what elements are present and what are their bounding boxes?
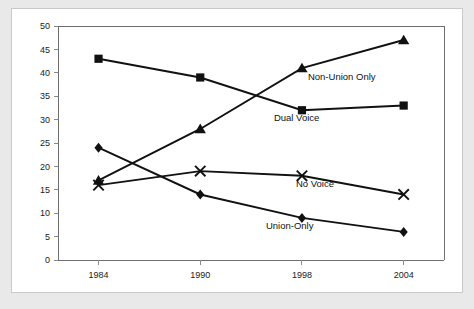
series-line [99, 148, 404, 232]
series-line [99, 59, 404, 110]
data-point-diamond-marker [196, 189, 204, 199]
series-annotation-label: Non-Union Only [308, 71, 376, 82]
series-line [99, 40, 404, 180]
y-tick-label: 40 [40, 68, 50, 78]
chart-card: 05101520253035404550 1984199019982004 Du… [11, 8, 463, 293]
series-non-union-only [93, 35, 409, 185]
y-tick-label: 20 [40, 162, 50, 172]
series-annotation-label: Union-Only [266, 220, 314, 231]
series-union-only [94, 143, 407, 237]
x-tick-label: 1998 [292, 270, 312, 280]
y-tick-label: 25 [40, 138, 50, 148]
data-point-square-marker [94, 55, 102, 63]
y-tick-label: 30 [40, 115, 50, 125]
figure-frame: 05101520253035404550 1984199019982004 Du… [0, 0, 474, 309]
series-layer [93, 35, 409, 237]
series-annotation-label: No Voice [296, 178, 334, 189]
series-annotation-label: Dual Voice [274, 112, 319, 123]
y-tick-label: 0 [45, 255, 50, 265]
y-tick-label: 5 [45, 232, 50, 242]
data-point-diamond-marker [94, 143, 102, 153]
y-axis: 05101520253035404550 [40, 21, 58, 265]
data-point-diamond-marker [400, 227, 408, 237]
x-tick-label: 1984 [89, 270, 109, 280]
line-chart-plot: 05101520253035404550 1984199019982004 Du… [12, 9, 462, 292]
x-tick-label: 1990 [190, 270, 210, 280]
y-tick-label: 10 [40, 208, 50, 218]
series-label-layer: Dual VoiceNon-Union OnlyNo VoiceUnion-On… [266, 71, 376, 231]
data-point-square-marker [196, 73, 204, 81]
data-point-square-marker [400, 101, 408, 109]
data-point-triangle-marker [398, 35, 409, 45]
y-tick-label: 50 [40, 21, 50, 31]
data-point-triangle-marker [195, 124, 206, 134]
series-dual-voice [94, 55, 407, 115]
y-tick-label: 35 [40, 91, 50, 101]
series-no-voice [93, 166, 409, 200]
y-tick-label: 45 [40, 45, 50, 55]
x-tick-label: 2004 [394, 270, 414, 280]
x-axis: 1984199019982004 [58, 26, 444, 280]
y-tick-label: 15 [40, 185, 50, 195]
series-line [99, 171, 404, 194]
